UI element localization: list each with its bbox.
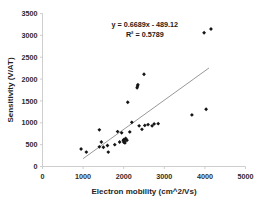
chart-canvas: 0500100015002000250030003500 01000200030… bbox=[0, 0, 258, 207]
data-point-marker bbox=[140, 127, 144, 131]
data-point-marker bbox=[97, 128, 101, 132]
data-point-marker bbox=[190, 113, 194, 117]
data-point-marker bbox=[137, 124, 141, 128]
data-point-marker bbox=[106, 144, 110, 148]
y-axis-tick-label: 3500 bbox=[22, 9, 38, 18]
data-point-marker bbox=[130, 120, 134, 124]
y-axis-tick-label: 1500 bbox=[22, 97, 38, 106]
data-point-marker bbox=[156, 122, 160, 126]
data-point-marker bbox=[113, 143, 117, 147]
x-axis-tick-label: 3000 bbox=[156, 172, 172, 181]
data-point-marker bbox=[106, 150, 110, 154]
y-axis-tick-label: 2500 bbox=[22, 53, 38, 62]
data-point-marker bbox=[202, 31, 206, 35]
x-axis-tick-label: 4000 bbox=[197, 172, 213, 181]
data-point-marker bbox=[142, 72, 146, 76]
y-axis-tick-label: 0 bbox=[34, 162, 38, 171]
data-point-marker bbox=[118, 140, 122, 144]
data-point-marker bbox=[128, 130, 132, 134]
data-point-marker bbox=[84, 150, 88, 154]
y-axis-tick-labels: 0500100015002000250030003500 bbox=[22, 9, 38, 171]
r-squared-label: R² = 0.5789 bbox=[126, 30, 164, 39]
x-axis-tick-label: 1000 bbox=[75, 172, 91, 181]
data-point-marker bbox=[99, 140, 103, 144]
y-axis-tick-label: 2000 bbox=[22, 75, 38, 84]
scatter-chart: 0500100015002000250030003500 01000200030… bbox=[0, 0, 258, 207]
data-point-marker bbox=[146, 123, 150, 127]
y-axis-tick-label: 3000 bbox=[22, 31, 38, 40]
y-axis-tick-label: 1000 bbox=[22, 118, 38, 127]
trendline bbox=[83, 68, 209, 159]
y-axis-title: Sensitivity (V/AT) bbox=[6, 57, 15, 123]
x-axis-title: Electron mobility (cm^2/Vs) bbox=[91, 187, 196, 196]
trendline-equation-label: y = 0.6689x - 489.12 bbox=[112, 20, 179, 29]
data-point-marker bbox=[126, 100, 130, 104]
data-point-marker bbox=[143, 124, 147, 128]
y-axis-tick-label: 500 bbox=[26, 140, 38, 149]
data-point-marker bbox=[204, 107, 208, 111]
x-axis-tick-label: 5000 bbox=[238, 172, 254, 181]
x-axis-tick-label: 2000 bbox=[116, 172, 132, 181]
data-point-marker bbox=[102, 145, 106, 149]
data-point-marker bbox=[209, 27, 213, 31]
x-axis-tick-label: 0 bbox=[41, 172, 45, 181]
data-point-markers bbox=[79, 27, 213, 154]
x-axis-tick-labels: 010002000300040005000 bbox=[41, 172, 254, 181]
data-point-marker bbox=[79, 147, 83, 151]
